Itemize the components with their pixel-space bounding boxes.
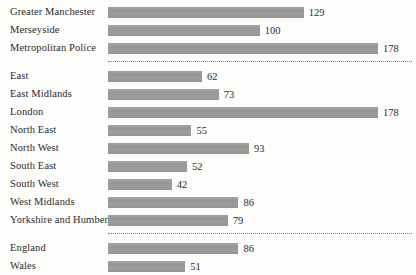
bar — [108, 243, 238, 254]
bar-value-label: 62 — [207, 71, 218, 82]
bar — [108, 89, 219, 100]
bar — [108, 261, 185, 272]
bar — [108, 107, 378, 118]
row-bar-area: 178 — [108, 39, 416, 57]
chart-row: Metropolitan Police 178 — [0, 39, 416, 57]
chart-group-1: Greater Manchester 129 Merseyside 100 Me… — [0, 3, 416, 57]
bar-value-label: 93 — [254, 143, 265, 154]
bar — [108, 71, 202, 82]
bar — [108, 197, 238, 208]
row-label: South East — [10, 157, 56, 175]
row-bar-area: 100 — [108, 21, 416, 39]
row-bar-area: 86 — [108, 239, 416, 257]
chart-row: East 62 — [0, 67, 416, 85]
bar-value-label: 73 — [224, 89, 235, 100]
bar-value-label: 86 — [243, 243, 254, 254]
chart-row: South West 42 — [0, 175, 416, 193]
chart-row: England 86 — [0, 239, 416, 257]
bar-value-label: 86 — [243, 197, 254, 208]
bar-value-label: 178 — [383, 43, 399, 54]
row-label: Merseyside — [10, 21, 60, 39]
row-bar-area: 62 — [108, 67, 416, 85]
chart-row: Yorkshire and Humber 79 — [0, 211, 416, 229]
bar-value-label: 178 — [383, 107, 399, 118]
row-label: West Midlands — [10, 193, 75, 211]
row-bar-area: 52 — [108, 157, 416, 175]
bar — [108, 7, 304, 18]
chart-row: West Midlands 86 — [0, 193, 416, 211]
chart-group-3: England 86 Wales 51 — [0, 239, 416, 275]
row-bar-area: 86 — [108, 193, 416, 211]
row-label: South West — [10, 175, 59, 193]
bar-value-label: 55 — [196, 125, 207, 136]
bar — [108, 215, 228, 226]
dotted-divider — [108, 61, 412, 63]
row-bar-area: 42 — [108, 175, 416, 193]
row-bar-area: 178 — [108, 103, 416, 121]
chart-row: North East 55 — [0, 121, 416, 139]
row-bar-area: 129 — [108, 3, 416, 21]
row-label: London — [10, 103, 43, 121]
bar — [108, 179, 172, 190]
row-label: North West — [10, 139, 59, 157]
row-bar-area: 73 — [108, 85, 416, 103]
chart-row: London 178 — [0, 103, 416, 121]
row-bar-area: 93 — [108, 139, 416, 157]
row-label: Yorkshire and Humber — [10, 211, 108, 229]
chart-row: Greater Manchester 129 — [0, 3, 416, 21]
row-bar-area: 55 — [108, 121, 416, 139]
bar — [108, 161, 187, 172]
row-label: North East — [10, 121, 56, 139]
bar-value-label: 129 — [309, 7, 325, 18]
chart-row: North West 93 — [0, 139, 416, 157]
bar-value-label: 100 — [265, 25, 281, 36]
bar — [108, 25, 260, 36]
row-label: England — [10, 239, 46, 257]
group-separator-2 — [0, 229, 416, 239]
row-bar-area: 79 — [108, 211, 416, 229]
row-label: East Midlands — [10, 85, 72, 103]
chart-row: Wales 51 — [0, 257, 416, 275]
row-bar-area: 51 — [108, 257, 416, 275]
chart-row: East Midlands 73 — [0, 85, 416, 103]
chart-row: South East 52 — [0, 157, 416, 175]
group-separator-1 — [0, 57, 416, 67]
row-label: East — [10, 67, 29, 85]
bar-value-label: 79 — [233, 215, 244, 226]
bar-value-label: 51 — [190, 261, 201, 272]
bar-value-label: 52 — [192, 161, 203, 172]
chart-row: Merseyside 100 — [0, 21, 416, 39]
row-label: Metropolitan Police — [10, 39, 96, 57]
chart-group-2: East 62 East Midlands 73 London 178 Nort… — [0, 67, 416, 229]
bar — [108, 125, 191, 136]
bar — [108, 43, 378, 54]
bar — [108, 143, 249, 154]
row-label: Greater Manchester — [10, 3, 95, 21]
row-label: Wales — [10, 257, 36, 275]
dotted-divider — [108, 233, 412, 235]
bar-value-label: 42 — [177, 179, 188, 190]
